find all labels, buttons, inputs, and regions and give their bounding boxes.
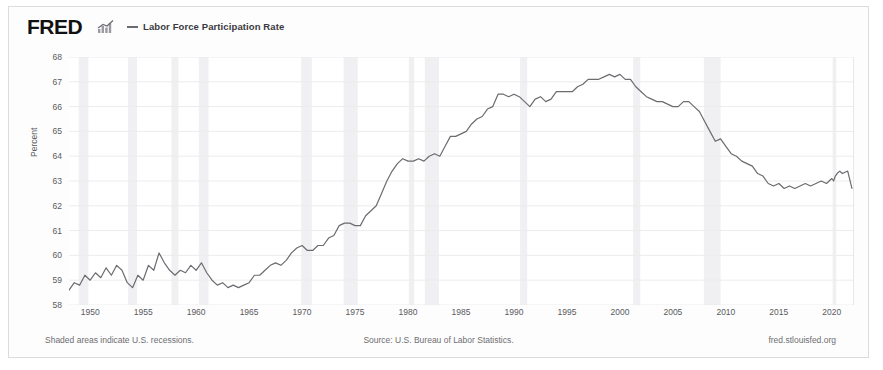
x-tick-label: 1970	[293, 307, 312, 317]
x-axis-ticks: 1950195519601965197019751980198519901995…	[69, 307, 853, 321]
x-tick-label: 1955	[134, 307, 153, 317]
x-tick-label: 2005	[663, 307, 682, 317]
y-tick-label: 68	[53, 53, 62, 61]
chart-footer: Shaded areas indicate U.S. recessions. S…	[9, 335, 868, 349]
y-tick-label: 65	[53, 127, 62, 135]
y-axis-ticks: 5859606162636465666768	[9, 57, 62, 305]
chart-header: FRED Labor Force Participation Rate	[9, 7, 868, 45]
x-tick-label: 2015	[769, 307, 788, 317]
y-tick-label: 59	[53, 276, 62, 284]
y-tick-label: 61	[53, 227, 62, 235]
x-tick-label: 1980	[399, 307, 418, 317]
x-tick-label: 2020	[822, 307, 841, 317]
x-tick-label: 2010	[716, 307, 735, 317]
footer-source: Source: U.S. Bureau of Labor Statistics.	[363, 335, 513, 345]
legend-series-label: Labor Force Participation Rate	[143, 21, 284, 32]
y-tick-label: 63	[53, 177, 62, 185]
x-tick-label: 1965	[240, 307, 259, 317]
chart-glyph-icon	[97, 20, 115, 34]
x-tick-label: 1990	[505, 307, 524, 317]
chart-legend: Labor Force Participation Rate	[127, 21, 284, 32]
x-tick-label: 1985	[452, 307, 471, 317]
y-tick-label: 58	[53, 301, 62, 309]
x-tick-label: 1950	[81, 307, 100, 317]
x-tick-label: 2000	[610, 307, 629, 317]
plot-wrapper	[69, 57, 853, 305]
y-tick-label: 64	[53, 152, 62, 160]
y-tick-label: 66	[53, 103, 62, 111]
plot-area	[69, 57, 854, 305]
fred-logo: FRED	[27, 16, 82, 37]
y-tick-label: 62	[53, 202, 62, 210]
fred-chart-panel: FRED Labor Force Participation Rate Perc…	[8, 6, 869, 358]
legend-line-swatch	[127, 26, 138, 28]
x-tick-label: 1975	[346, 307, 365, 317]
footer-recession-note: Shaded areas indicate U.S. recessions.	[45, 335, 194, 345]
x-tick-label: 1960	[187, 307, 206, 317]
series-plot	[69, 57, 853, 305]
footer-url: fred.stlouisfed.org	[768, 335, 836, 345]
x-tick-label: 1995	[557, 307, 576, 317]
y-tick-label: 60	[53, 251, 62, 259]
y-tick-label: 67	[53, 78, 62, 86]
